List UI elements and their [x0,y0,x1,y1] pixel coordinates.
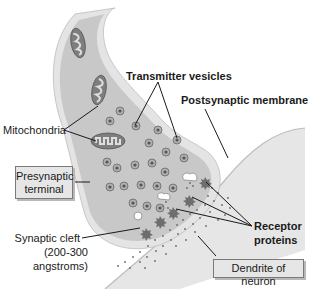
synapse-diagram: Transmitter vesicles Postsynaptic membra… [0,0,310,289]
label-receptor-proteins-2: proteins [254,234,297,246]
label-dendrite-of-neuron: Dendrite of neuron [213,259,304,278]
label-postsynaptic-membrane: Postsynaptic membrane [181,94,308,106]
label-synaptic-cleft-3: angstroms) [33,260,88,272]
presynaptic-line-1: Presynaptic [16,170,72,183]
label-receptor-proteins-1: Receptor [254,220,302,232]
mitochondrion-3 [91,133,125,149]
presynaptic-line-2: terminal [16,183,72,196]
label-presynaptic-terminal: Presynaptic terminal [15,166,73,199]
label-synaptic-cleft-2: (200-300 [44,246,88,258]
leader-postsyn [205,109,228,158]
label-mitochondria: Mitochondria [3,124,67,136]
label-synaptic-cleft-1: Synaptic cleft [15,232,80,244]
label-transmitter-vesicles: Transmitter vesicles [126,70,232,82]
